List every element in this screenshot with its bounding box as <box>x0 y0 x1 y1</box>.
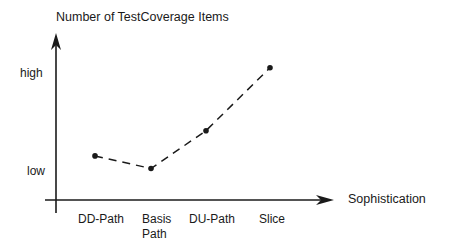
series-points <box>92 65 273 171</box>
x-axis-title: Sophistication <box>348 192 426 206</box>
x-tick-basis-path-line2: Path <box>142 227 167 241</box>
x-tick-du-path: DU-Path <box>189 212 235 226</box>
x-tick-dd-path: DD-Path <box>78 212 124 226</box>
data-point <box>267 65 273 71</box>
y-tick-low: low <box>27 164 45 178</box>
data-point <box>92 153 98 159</box>
x-tick-basis-path-line1: Basis <box>142 212 171 226</box>
data-point <box>148 166 154 172</box>
y-tick-high: high <box>20 66 43 80</box>
data-point <box>203 128 209 134</box>
series-line <box>95 68 270 169</box>
x-tick-slice: Slice <box>259 212 285 226</box>
y-axis-title: Number of TestCoverage Items <box>56 10 229 24</box>
